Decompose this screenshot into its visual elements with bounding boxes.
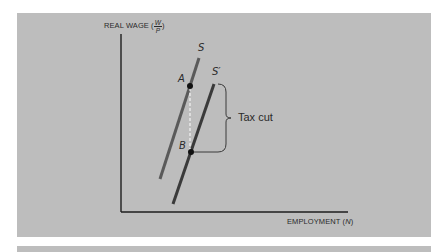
point-label-b: B	[179, 140, 186, 151]
point-a-marker	[187, 83, 193, 89]
fraction-denominator: P	[154, 27, 162, 34]
tax-cut-brace	[194, 84, 231, 152]
point-b-marker	[188, 149, 194, 155]
y-axis-label: REAL WAGE (WP)	[104, 19, 165, 34]
point-label-a: A	[178, 73, 185, 84]
x-axis-symbol: N	[345, 217, 351, 226]
y-axis-label-text: REAL WAGE	[104, 21, 149, 30]
curve-label-s-prime: S′	[212, 66, 221, 77]
x-axis-label-text: EMPLOYMENT	[287, 217, 340, 226]
wage-fraction: WP	[154, 19, 162, 34]
tax-cut-annotation: Tax cut	[238, 111, 273, 123]
curve-label-s: S	[198, 42, 204, 53]
fraction-numerator: W	[154, 19, 162, 27]
x-axis-label: EMPLOYMENT (N)	[287, 217, 353, 226]
